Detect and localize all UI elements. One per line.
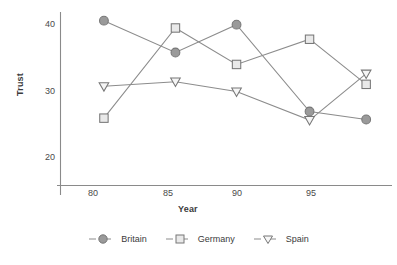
legend-label-spain: Spain xyxy=(286,234,309,244)
axes xyxy=(57,12,392,195)
data-point-britain-3[interactable] xyxy=(305,107,314,116)
series-spain xyxy=(99,70,371,125)
data-point-spain-2[interactable] xyxy=(232,88,242,96)
y-axis-title: Trust xyxy=(15,78,25,96)
data-point-britain-1[interactable] xyxy=(171,48,180,57)
data-point-germany-3[interactable] xyxy=(305,35,313,43)
plot-area xyxy=(0,0,397,265)
legend-item-germany[interactable]: Germany xyxy=(165,232,235,246)
series-germany xyxy=(100,24,371,123)
triangle-down-marker-icon xyxy=(253,232,283,246)
square-marker-icon xyxy=(165,232,195,246)
data-point-spain-3[interactable] xyxy=(305,117,315,125)
series-line-britain xyxy=(104,21,366,120)
line-chart: Trust Year 40 30 20 80 85 90 95 Britain … xyxy=(0,0,397,265)
data-point-britain-4[interactable] xyxy=(362,115,371,124)
circle-marker-icon xyxy=(88,232,118,246)
legend-item-britain[interactable]: Britain xyxy=(88,232,147,246)
y-tick-label-20: 20 xyxy=(33,152,55,162)
series-britain xyxy=(100,16,371,124)
data-point-germany-4[interactable] xyxy=(362,80,370,88)
data-point-spain-0[interactable] xyxy=(99,83,109,91)
legend-label-germany: Germany xyxy=(198,234,235,244)
series-line-spain xyxy=(104,74,366,120)
data-point-germany-0[interactable] xyxy=(100,114,108,122)
data-point-germany-2[interactable] xyxy=(232,60,240,68)
x-tick-label-85: 85 xyxy=(155,188,181,198)
data-series-group xyxy=(99,16,371,125)
data-point-germany-1[interactable] xyxy=(171,24,179,32)
x-tick-label-90: 90 xyxy=(224,188,250,198)
y-tick-label-40: 40 xyxy=(33,19,55,29)
x-axis-title: Year xyxy=(178,204,198,214)
series-line-germany xyxy=(104,28,366,118)
x-tick-label-95: 95 xyxy=(298,188,324,198)
legend-item-spain[interactable]: Spain xyxy=(253,232,309,246)
chart-legend: Britain Germany Spain xyxy=(0,232,397,246)
data-point-britain-2[interactable] xyxy=(232,20,241,29)
legend-label-britain: Britain xyxy=(121,234,147,244)
data-point-spain-4[interactable] xyxy=(361,70,371,78)
x-tick-label-80: 80 xyxy=(80,188,106,198)
data-point-britain-0[interactable] xyxy=(100,16,109,25)
y-tick-label-30: 30 xyxy=(33,86,55,96)
